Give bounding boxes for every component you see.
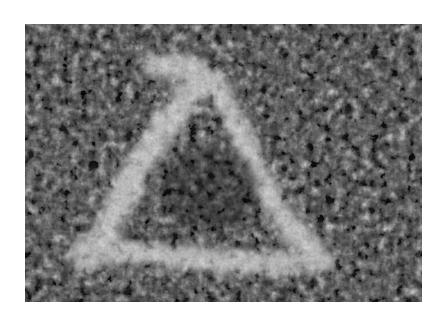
triangle-feature-image [25, 24, 422, 302]
micrograph-photo [25, 24, 422, 302]
